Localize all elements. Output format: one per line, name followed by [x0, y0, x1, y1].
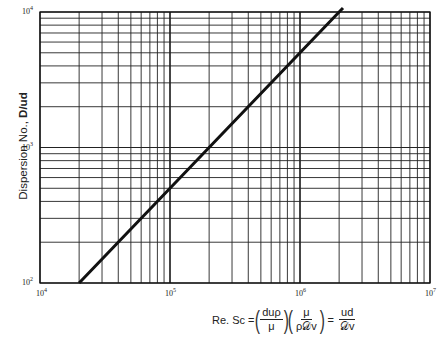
- x-tick-10-6: 106: [295, 287, 306, 298]
- fraction-numerator: μ: [301, 306, 311, 320]
- fraction-denominator: ρ𝒟v: [294, 320, 319, 333]
- fraction-numerator: duρ: [260, 306, 283, 320]
- x-tick-10-5: 105: [165, 287, 176, 298]
- grid-lines: [40, 12, 430, 283]
- fraction-numerator: ud: [339, 306, 355, 320]
- x-tick-10-7: 107: [425, 287, 436, 298]
- x-axis-label-formula: Re. Sc = ( duρ μ ) ( μ ρ𝒟v ) = ud 𝒟v: [212, 306, 357, 333]
- chart-plot: [0, 0, 444, 346]
- paren-open: (: [254, 307, 259, 333]
- paren-open: (: [288, 307, 293, 333]
- fraction-result: ud 𝒟v: [338, 306, 357, 333]
- fraction-denominator: μ: [266, 320, 276, 333]
- y-tick-10-3: 103: [22, 141, 33, 152]
- fraction-denominator: 𝒟v: [338, 320, 357, 333]
- y-tick-10-2: 102: [22, 276, 33, 287]
- formula-equals: =: [327, 314, 333, 326]
- fraction-schmidt: μ ρ𝒟v: [294, 306, 319, 333]
- formula-lhs: Re. Sc =: [212, 314, 255, 326]
- fraction-reynolds: duρ μ: [260, 306, 283, 333]
- y-tick-10-4: 104: [22, 5, 33, 16]
- x-tick-10-4: 104: [36, 287, 47, 298]
- paren-close: ): [320, 307, 325, 333]
